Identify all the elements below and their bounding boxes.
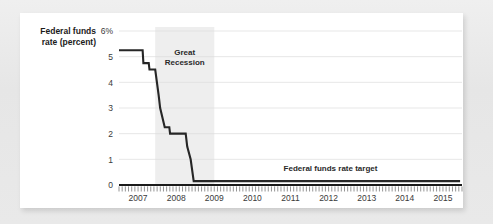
y-axis-tick-label: 2 [108,129,113,139]
y-axis-tick-label: 5 [108,52,113,62]
x-axis-tick-label: 2015 [433,193,452,203]
x-axis-tick-label: 2009 [205,193,224,203]
chart-card: 6%543210Federal fundsrate (percent)20072… [20,13,463,208]
y-axis-tick-label: 6% [101,26,114,36]
x-axis-tick-label: 2014 [395,193,414,203]
y-axis-tick-label: 0 [108,180,113,190]
x-axis-tick-label: 2010 [243,193,262,203]
x-axis-tick-label: 2013 [357,193,376,203]
x-axis-tick-label: 2011 [281,193,300,203]
great-recession-label-line1: Great [174,48,195,57]
x-axis-tick-label: 2008 [167,193,186,203]
x-axis-tick-label: 2012 [319,193,338,203]
y-axis-title-line2: rate (percent) [42,37,96,47]
y-axis-title-line1: Federal funds [40,26,96,36]
y-axis-tick-label: 1 [108,155,113,165]
y-axis-tick-label: 4 [108,78,113,88]
y-axis-tick-label: 3 [108,103,113,113]
federal-funds-rate-chart: 6%543210Federal fundsrate (percent)20072… [20,13,463,208]
federal-funds-rate-target-label: Federal funds rate target [284,164,378,173]
x-axis-tick-label: 2007 [129,193,148,203]
great-recession-label-line2: Recession [165,58,205,67]
